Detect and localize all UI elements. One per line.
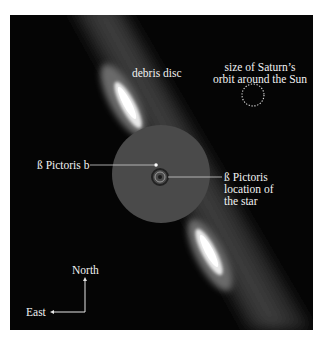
coronagraph-mask [112, 125, 210, 223]
saturn-orbit-label-line2: orbit around the Sun [206, 73, 313, 85]
saturn-orbit-label-line1: size of Saturn’s [206, 61, 313, 73]
star-label-line2: location of [224, 183, 274, 195]
saturn-orbit-label: size of Saturn’s orbit around the Sun [206, 61, 313, 85]
saturn-orbit-circle [242, 84, 264, 106]
compass [50, 277, 87, 314]
north-arrow-icon [83, 277, 87, 281]
astronomical-image: debris disc size of Saturn’s orbit aroun… [10, 15, 313, 330]
east-arrow-icon [50, 310, 54, 314]
planet-label: ß Pictoris b [37, 159, 89, 171]
debris-disc-label: debris disc [132, 67, 182, 79]
planet-marker [154, 163, 158, 167]
north-label: North [72, 264, 99, 276]
star-label-line3: the star [224, 195, 274, 207]
star-label: ß Pictoris location of the star [224, 171, 274, 207]
east-label: East [26, 306, 46, 318]
star-label-line1: ß Pictoris [224, 171, 274, 183]
